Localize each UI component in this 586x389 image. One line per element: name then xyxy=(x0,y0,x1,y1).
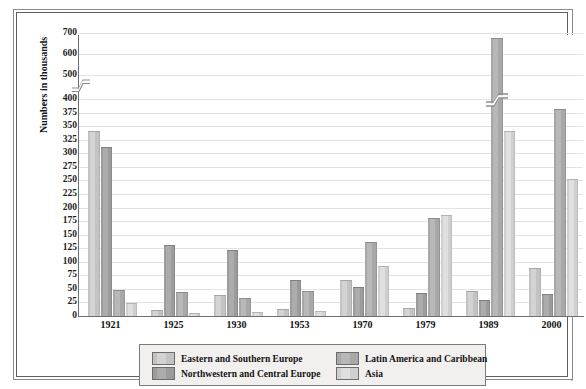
y-tick-label: 700 xyxy=(37,28,77,37)
chart-inner-frame: Numbers in thousands 0255075100125150175… xyxy=(16,12,568,377)
bar xyxy=(403,308,415,316)
bar xyxy=(441,215,453,316)
bar xyxy=(315,311,327,316)
bar xyxy=(428,218,440,316)
y-tick-label: 600 xyxy=(37,49,77,58)
legend-label: Northwestern and Central Europe xyxy=(181,369,320,379)
y-tick-label: 200 xyxy=(37,203,77,212)
y-tick-label: 400 xyxy=(37,94,77,103)
bar xyxy=(353,287,365,316)
x-tick-label: 1970 xyxy=(331,319,394,330)
y-tick-label: 250 xyxy=(37,175,77,184)
bar xyxy=(479,300,491,316)
y-tick-label: 125 xyxy=(37,243,77,252)
legend-item: Latin America and Caribbean xyxy=(336,352,487,365)
x-axis-line xyxy=(78,316,584,317)
axis-break-icon xyxy=(72,76,90,92)
x-tick-label: 1953 xyxy=(268,319,331,330)
bar xyxy=(365,242,377,316)
legend-item: Eastern and Southern Europe xyxy=(152,352,303,365)
legend-label: Eastern and Southern Europe xyxy=(181,354,303,364)
y-axis-tick-labels: 0255075100125150175200225250275300325350… xyxy=(33,13,77,389)
y-tick-label: 25 xyxy=(37,297,77,306)
bar-axis-break-icon xyxy=(486,91,508,107)
chart-legend: Eastern and Southern EuropeNorthwestern … xyxy=(139,344,486,386)
bar xyxy=(567,179,579,316)
legend-label: Asia xyxy=(365,369,383,379)
y-tick-label: 275 xyxy=(37,162,77,171)
bar xyxy=(214,295,226,316)
bar xyxy=(302,291,314,316)
bar xyxy=(416,293,428,316)
legend-item: Asia xyxy=(336,367,383,380)
x-tick-label: 2000 xyxy=(520,319,583,330)
bar xyxy=(542,294,554,316)
x-tick-label: 1921 xyxy=(79,319,142,330)
y-tick-label: 100 xyxy=(37,257,77,266)
bar xyxy=(227,250,239,316)
bar xyxy=(491,38,503,316)
bar xyxy=(529,268,541,316)
y-tick-label: 225 xyxy=(37,189,77,198)
legend-swatch xyxy=(336,367,359,380)
bar xyxy=(101,147,113,316)
legend-label: Latin America and Caribbean xyxy=(365,354,487,364)
y-tick-label: 0 xyxy=(37,311,77,320)
y-tick-label: 350 xyxy=(37,121,77,130)
y-tick-label: 375 xyxy=(37,108,77,117)
bar xyxy=(164,245,176,317)
bar xyxy=(504,131,516,316)
bar xyxy=(466,291,478,316)
bar xyxy=(239,298,251,316)
bar xyxy=(126,303,138,316)
bar xyxy=(290,280,302,316)
legend-item: Northwestern and Central Europe xyxy=(152,367,320,380)
y-tick-label: 75 xyxy=(37,270,77,279)
x-tick-label: 1925 xyxy=(142,319,205,330)
bar xyxy=(113,290,125,317)
y-tick-label: 50 xyxy=(37,284,77,293)
bar xyxy=(176,292,188,316)
bar xyxy=(88,131,100,316)
bar xyxy=(277,309,289,317)
bar xyxy=(378,266,390,316)
bar xyxy=(340,280,352,316)
legend-swatch xyxy=(336,352,359,365)
gridline xyxy=(79,54,583,55)
y-tick-label: 325 xyxy=(37,135,77,144)
y-tick-label: 150 xyxy=(37,230,77,239)
x-tick-label: 1979 xyxy=(394,319,457,330)
bar xyxy=(151,310,163,316)
gridline xyxy=(79,126,583,127)
bar xyxy=(252,312,264,316)
y-tick-label: 300 xyxy=(37,148,77,157)
bar xyxy=(189,313,201,316)
plot-area xyxy=(79,35,583,316)
gridline xyxy=(79,113,583,114)
legend-swatch xyxy=(152,367,175,380)
y-tick-label: 175 xyxy=(37,216,77,225)
x-tick-label: 1989 xyxy=(457,319,520,330)
x-tick-label: 1930 xyxy=(205,319,268,330)
y-tick-label: 500 xyxy=(37,70,77,79)
gridline xyxy=(79,33,583,34)
legend-swatch xyxy=(152,352,175,365)
bar xyxy=(554,109,566,316)
gridline xyxy=(79,75,583,76)
